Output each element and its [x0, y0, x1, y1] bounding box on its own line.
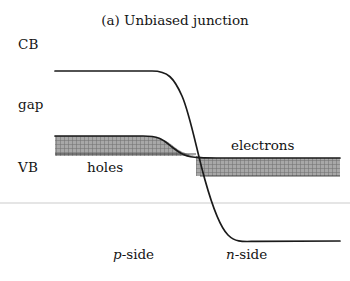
p-side-suffix: -side [122, 246, 154, 262]
electrons-label: electrons [231, 139, 295, 153]
conduction-band-label: CB [18, 38, 39, 52]
p-side-symbol: p [113, 246, 122, 262]
band-diagram-canvas [0, 0, 350, 281]
n-side-label: n-side [226, 248, 267, 262]
figure-title: (a) Unbiased junction [0, 14, 350, 28]
p-side-label: p-side [113, 248, 154, 262]
electrons-band-region [194, 152, 342, 178]
n-side-suffix: -side [235, 246, 267, 262]
band-diagram-figure: (a) Unbiased junction CB gap VB holes el… [0, 0, 350, 281]
band-gap-label: gap [18, 98, 43, 112]
valence-band-label: VB [18, 161, 38, 175]
n-side-symbol: n [226, 246, 235, 262]
holes-label: holes [87, 161, 123, 175]
